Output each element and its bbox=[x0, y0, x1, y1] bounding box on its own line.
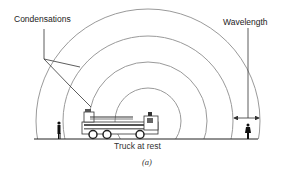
person-left-icon bbox=[57, 121, 60, 139]
wavelength-pointer bbox=[234, 28, 259, 118]
fire-truck-icon bbox=[82, 109, 158, 139]
condensations-label: Condensations bbox=[14, 14, 71, 24]
wavelength-label: Wavelength bbox=[223, 17, 268, 27]
figure-tag: (a) bbox=[142, 157, 152, 167]
person-right-icon bbox=[245, 124, 251, 140]
truck-caption: Truck at rest bbox=[114, 141, 161, 151]
